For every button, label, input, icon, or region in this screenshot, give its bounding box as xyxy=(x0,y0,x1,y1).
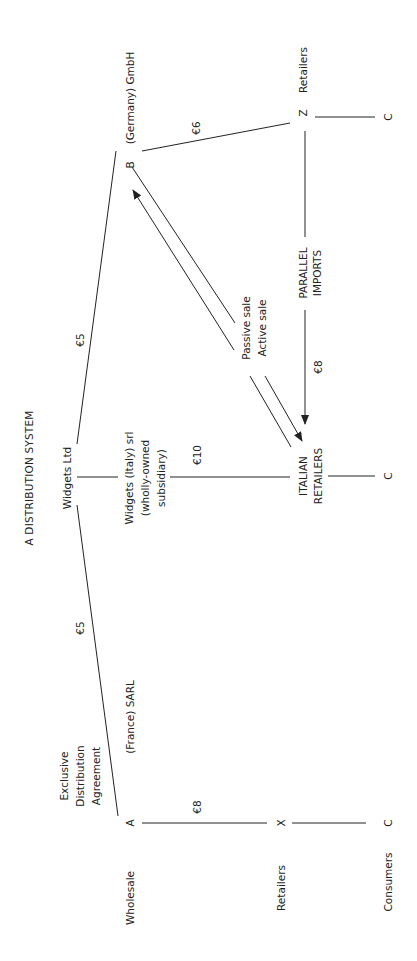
node-france-letter: A xyxy=(124,819,136,827)
node-z-letter: Z xyxy=(297,109,309,116)
edge-germany-to-z xyxy=(142,123,290,151)
edge-ltd-to-germany xyxy=(77,151,116,444)
passive-sale-label: Passive sale xyxy=(240,296,252,359)
diagram-canvas: A DISTRIBUTION SYSTEM Widgets Ltd €5 €5 … xyxy=(0,0,417,961)
row-label-wholesale: Wholesale xyxy=(124,871,136,925)
exclusive-label-line1: Exclusive xyxy=(58,751,70,800)
passive-sale-line xyxy=(132,167,235,323)
active-sale-arrow xyxy=(265,376,302,441)
price-italy-sub-to-retailers: €10 xyxy=(191,445,203,465)
node-z-label: Retailers xyxy=(297,47,309,93)
parallel-label-line1: PARALLEL xyxy=(297,247,309,298)
node-germany-label: (Germany) GmbH xyxy=(124,52,136,145)
active-sale-label: Active sale xyxy=(256,299,268,356)
node-italian-retailers-line2: RETAILERS xyxy=(312,448,324,505)
row-label-consumers: Consumers xyxy=(382,852,394,911)
price-parallel: €8 xyxy=(312,360,324,373)
node-italy-sub-line1: Widgets (Italy) srl xyxy=(123,432,135,525)
parallel-label-line2: IMPORTS xyxy=(311,249,323,296)
node-x-letter: X xyxy=(275,819,287,826)
price-ltd-to-france: €5 xyxy=(74,621,86,634)
row-label-retailers: Retailers xyxy=(275,865,287,911)
node-consumer-mid: C xyxy=(382,472,394,479)
distribution-diagram: A DISTRIBUTION SYSTEM Widgets Ltd €5 €5 … xyxy=(0,0,417,961)
node-italy-sub-line2: (wholly-owned xyxy=(139,440,151,516)
price-france-to-x: €8 xyxy=(191,800,203,813)
node-germany-letter: B xyxy=(124,161,136,168)
price-germany-to-z: €6 xyxy=(190,121,202,135)
node-widgets-ltd: Widgets Ltd xyxy=(61,447,73,509)
price-ltd-to-germany: €5 xyxy=(74,333,86,346)
node-italian-retailers-line1: ITALIAN xyxy=(297,456,309,496)
exclusive-label-line2: Distribution xyxy=(74,745,86,806)
node-consumer-top: C xyxy=(382,113,394,120)
exclusive-label-line3: Agreement xyxy=(90,747,102,805)
node-france-label: (France) SARL xyxy=(124,680,136,754)
diagram-title: A DISTRIBUTION SYSTEM xyxy=(23,410,35,545)
node-consumer-bottom: C xyxy=(382,819,394,826)
passive-sale-arrow xyxy=(133,190,234,350)
node-italy-sub-line3: subsidiary) xyxy=(155,449,167,507)
